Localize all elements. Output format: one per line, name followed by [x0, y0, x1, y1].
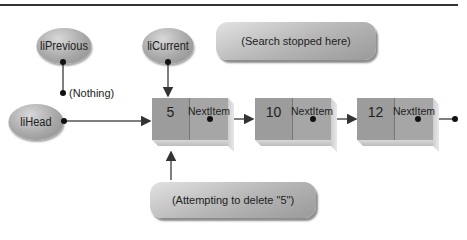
node-next-label: NextItem	[393, 105, 435, 117]
lipprevious-dot	[60, 59, 66, 65]
node5-next-dot	[207, 116, 213, 122]
lihead-dot	[61, 118, 67, 124]
list-node-10: 10 NextItem	[255, 98, 337, 140]
search-stopped-label: (Search stopped here)	[241, 35, 350, 47]
callout-attempting-delete: (Attempting to delete "5")	[150, 182, 316, 218]
pointer-lihead: liHead	[8, 104, 63, 140]
node-value: 5	[152, 98, 190, 140]
list-node-12: 12 NextItem	[357, 98, 439, 140]
nothing-dot	[60, 90, 66, 96]
node-value: 10	[255, 98, 293, 140]
attempting-delete-label: (Attempting to delete "5")	[172, 194, 294, 206]
node10-next-dot	[310, 116, 316, 122]
node-value: 12	[357, 98, 395, 140]
lipprevious-label: liPrevious	[40, 39, 88, 53]
list-node-5: 5 NextItem	[152, 98, 234, 140]
licurrent-dot	[165, 59, 171, 65]
null-end-dot	[452, 116, 458, 122]
callout-search-stopped: (Search stopped here)	[216, 22, 376, 60]
licurrent-label: liCurrent	[147, 39, 189, 53]
lihead-label: liHead	[20, 115, 51, 129]
node12-next-dot	[415, 116, 421, 122]
nothing-label: (Nothing)	[69, 87, 114, 99]
